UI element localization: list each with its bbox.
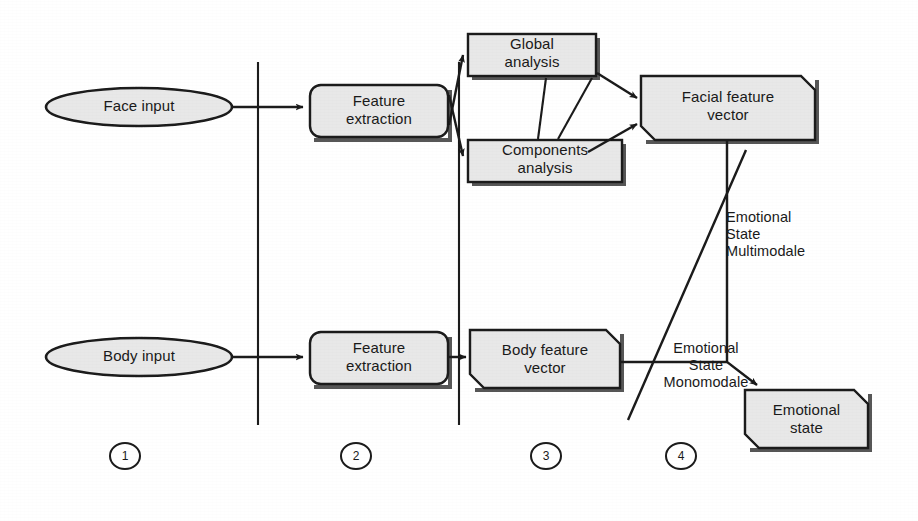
stage-number-2: 2 — [343, 443, 369, 469]
global-analysis-shape — [468, 34, 596, 76]
edge-global-components-link-a — [538, 78, 546, 139]
body-feature-extraction-shape — [310, 332, 448, 384]
diagram-canvas: Face input Body input Feature extraction… — [0, 0, 918, 521]
edge-label-multimodale: Emotional State Multimodale — [726, 209, 838, 260]
emotional-state-shape — [745, 390, 868, 448]
stage-number-3: 3 — [533, 443, 559, 469]
body-feature-vector-shape — [470, 330, 620, 388]
body-input-shape — [46, 338, 232, 376]
edge-global-components-link-b — [558, 78, 592, 139]
edge-global-to-facial-vector — [597, 73, 637, 98]
facial-feature-vector-shape — [641, 76, 815, 140]
face-input-shape — [46, 88, 232, 126]
stage-number-4: 4 — [668, 443, 694, 469]
face-feature-extraction-shape — [310, 85, 448, 137]
edge-label-monomodale: Emotional State Monomodale — [648, 340, 764, 391]
stage-number-1: 1 — [112, 443, 138, 469]
